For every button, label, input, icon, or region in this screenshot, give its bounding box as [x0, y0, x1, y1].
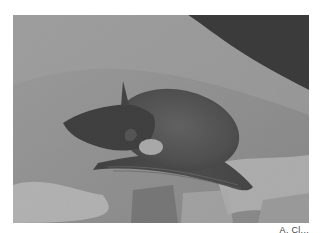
photo-credit: A. Cl...	[280, 226, 309, 233]
bat-photograph	[13, 15, 309, 223]
photo-graphic	[13, 15, 309, 223]
